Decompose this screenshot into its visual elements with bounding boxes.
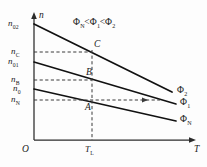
speed-torque-chart: n T O ΦN<Φ1<Φ2 n02 nC n01 nB n0 nN TL C … — [0, 0, 207, 167]
y-tick-n02: n02 — [8, 19, 18, 28]
phi-n-symbol: Φ — [73, 17, 80, 27]
series-label-phi1-base: Φ — [180, 97, 187, 107]
y-tick-n0-base: n — [13, 83, 18, 93]
y-tick-n02-sub: 02 — [13, 24, 19, 30]
y-tick-nc-base: n — [11, 46, 16, 56]
y-tick-n0-sub: 0 — [18, 89, 21, 95]
y-tick-n01-base: n — [8, 56, 13, 66]
origin-label: O — [22, 145, 29, 155]
y-axis-label: n — [39, 11, 44, 21]
y-tick-n02-base: n — [8, 18, 13, 28]
phi-n-subscript: N — [80, 23, 84, 29]
x-axis-arrowhead — [189, 137, 196, 143]
y-tick-n01: n01 — [8, 57, 18, 66]
x-tick-tl: TL — [85, 145, 94, 154]
series-label-phi2-sub: 2 — [184, 91, 187, 97]
series-label-phi1: Φ1 — [180, 98, 190, 108]
series-label-phin-sub: N — [187, 120, 191, 126]
series-label-phin: ΦN — [180, 115, 191, 125]
point-label-a: A — [85, 103, 91, 113]
phi-2-subscript: 2 — [112, 23, 115, 29]
series-label-phi2-base: Φ — [177, 85, 184, 95]
x-axis-label: T — [194, 145, 199, 155]
y-axis-arrowhead — [31, 12, 37, 19]
series-label-phin-base: Φ — [180, 114, 187, 124]
phi-1-subscript: 1 — [97, 23, 100, 29]
phi-2-symbol: Φ — [105, 17, 112, 27]
series-line-phin — [34, 89, 176, 121]
series-label-phi1-sub: 1 — [187, 103, 190, 109]
series-label-phi2: Φ2 — [177, 86, 187, 96]
phi-1-symbol: Φ — [90, 17, 97, 27]
y-tick-nn: nN — [11, 95, 20, 104]
y-tick-nc: nC — [11, 47, 19, 56]
point-label-c: C — [94, 40, 100, 50]
y-tick-nn-sub: N — [16, 100, 20, 106]
x-tick-tl-sub: L — [90, 150, 94, 156]
y-tick-n0: n0 — [13, 84, 20, 93]
point-label-b: B — [86, 68, 92, 78]
flux-condition-label: ΦN<Φ1<Φ2 — [73, 18, 115, 28]
y-tick-nn-base: n — [11, 94, 16, 104]
flow-direction-arrowhead — [142, 98, 148, 103]
y-tick-n01-sub: 01 — [13, 62, 19, 68]
